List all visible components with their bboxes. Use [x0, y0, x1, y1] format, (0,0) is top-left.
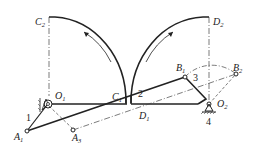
label-link-3: 3 [193, 72, 198, 83]
ground-pivot-O2-icon [201, 102, 216, 114]
label-link-2: 2 [138, 88, 143, 99]
label-O1: O1 [55, 90, 65, 102]
mechanism-diagram: C2 D2 C1 D1 B1 B2 O1 O2 A1 A3 1 2 3 4 [0, 0, 257, 150]
ground-pivot-O1-icon [38, 98, 52, 112]
alt-link-O1-A3 [49, 106, 73, 129]
alt-link-A3-B2 [73, 74, 236, 130]
label-O2: O2 [217, 98, 228, 110]
label-C1: C1 [112, 91, 122, 103]
label-A1: A1 [13, 131, 23, 143]
label-link-1: 1 [26, 112, 31, 123]
left-motion-arrow [84, 32, 111, 62]
label-D1: D1 [138, 110, 149, 122]
joint-B1-icon [183, 75, 187, 79]
label-link-4: 4 [206, 116, 211, 127]
label-D2: D2 [212, 16, 224, 28]
label-A3: A3 [71, 132, 82, 144]
joint-A1-icon [25, 129, 29, 133]
label-B2: B2 [233, 62, 243, 74]
label-C2: C2 [35, 16, 46, 28]
label-B1: B1 [176, 62, 185, 74]
right-motion-arrow [146, 32, 173, 62]
